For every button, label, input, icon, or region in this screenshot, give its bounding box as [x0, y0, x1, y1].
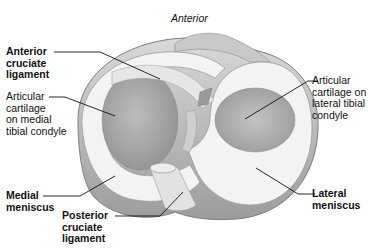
orientation-anterior-label: Anterior	[171, 13, 208, 25]
label-posterior-cruciate-ligament: Posterior cruciate ligament	[62, 210, 108, 245]
label-anterior-cruciate-ligament: Anterior cruciate ligament	[6, 46, 49, 81]
label-lateral-meniscus: Lateral meniscus	[312, 188, 360, 211]
knee-menisci-diagram: Anterior Anterior cruciate ligament Arti…	[0, 0, 368, 250]
lateral-cartilage-shape	[215, 88, 295, 152]
medial-cartilage-shape	[102, 70, 178, 170]
label-medial-meniscus: Medial meniscus	[6, 190, 54, 213]
label-articular-cartilage-medial: Articular cartilage on medial tibial con…	[6, 91, 67, 137]
label-articular-cartilage-lateral: Articular cartilage on lateral tibial co…	[312, 75, 366, 121]
